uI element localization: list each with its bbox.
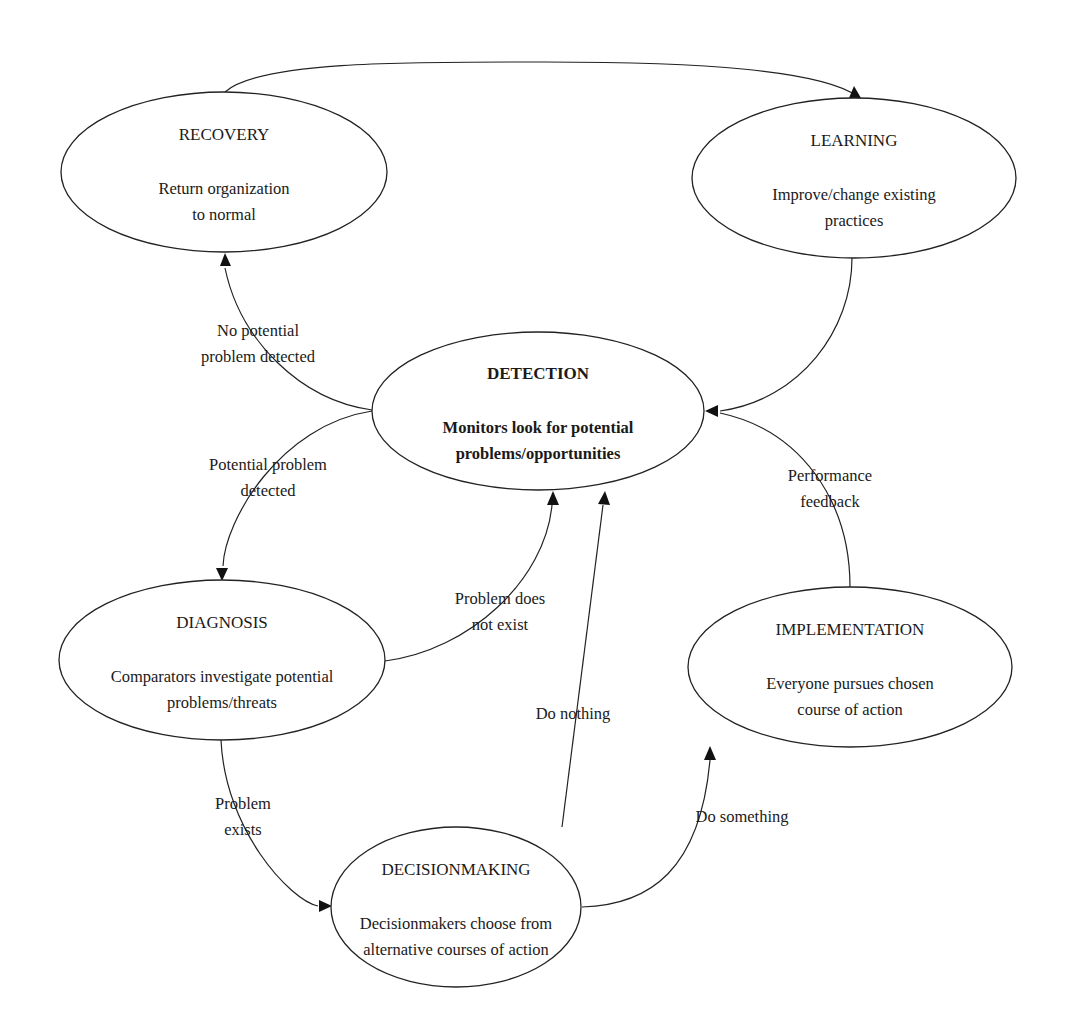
- arrowhead-icon: [220, 253, 231, 266]
- edge-learning-to-detection: [705, 258, 852, 417]
- node-decisionmaking-desc-line2: alternative courses of action: [363, 940, 549, 959]
- node-implementation: IMPLEMENTATION Everyone pursues chosen c…: [688, 587, 1012, 747]
- edge-label-no-potential-problem: No potential problem detected: [201, 321, 316, 366]
- edge-decisionmaking-to-detection: [562, 491, 610, 827]
- node-learning-title: LEARNING: [811, 131, 898, 150]
- edge-recovery-to-learning: [225, 62, 861, 98]
- edge-label-line1: Performance: [788, 466, 872, 485]
- node-recovery-desc-line1: Return organization: [158, 179, 289, 198]
- edge-label-line1: No potential: [217, 321, 299, 340]
- arrowhead-icon: [547, 491, 559, 505]
- arrowhead-icon: [705, 405, 718, 417]
- node-diagnosis-desc-line2: problems/threats: [167, 693, 277, 712]
- edge-label-line1: Problem: [215, 794, 271, 813]
- node-learning: LEARNING Improve/change existing practic…: [692, 98, 1016, 258]
- edge-label-line2: detected: [241, 481, 297, 500]
- decision-cycle-diagram: RECOVERY Return organization to normal L…: [0, 0, 1090, 1030]
- node-decisionmaking-title: DECISIONMAKING: [381, 860, 530, 879]
- node-detection-desc-line2: problems/opportunities: [456, 444, 621, 463]
- edge-label-problem-exists: Problem exists: [215, 794, 271, 839]
- edge-label-potential-problem-detected: Potential problem detected: [209, 455, 327, 500]
- node-diagnosis-desc-line1: Comparators investigate potential: [111, 667, 334, 686]
- edge-label-line1: Problem does: [455, 589, 545, 608]
- node-implementation-title: IMPLEMENTATION: [776, 620, 925, 639]
- edge-label: Do something: [695, 807, 788, 826]
- node-recovery-desc-line2: to normal: [192, 205, 256, 224]
- node-implementation-desc-line2: course of action: [797, 700, 902, 719]
- node-detection: DETECTION Monitors look for potential pr…: [372, 332, 704, 490]
- node-implementation-desc-line1: Everyone pursues chosen: [766, 674, 934, 693]
- node-detection-title: DETECTION: [487, 364, 590, 383]
- arrowhead-icon: [598, 491, 610, 505]
- edge-label-line1: Potential problem: [209, 455, 327, 474]
- arrowhead-icon: [319, 900, 332, 912]
- node-learning-desc-line2: practices: [825, 211, 884, 230]
- edge-label-do-nothing: Do nothing: [536, 704, 611, 723]
- edge-label-line2: feedback: [800, 492, 860, 511]
- edge-label-do-something: Do something: [695, 807, 788, 826]
- node-diagnosis: DIAGNOSIS Comparators investigate potent…: [59, 580, 385, 740]
- edge-label-line2: exists: [224, 820, 262, 839]
- edge-label-performance-feedback: Performance feedback: [788, 466, 872, 511]
- edge-label-line2: problem detected: [201, 347, 316, 366]
- node-recovery-title: RECOVERY: [179, 125, 270, 144]
- node-recovery: RECOVERY Return organization to normal: [61, 92, 387, 252]
- node-decisionmaking: DECISIONMAKING Decisionmakers choose fro…: [331, 827, 581, 987]
- edge-label-line2: not exist: [472, 615, 529, 634]
- node-diagnosis-title: DIAGNOSIS: [176, 613, 268, 632]
- node-detection-desc-line1: Monitors look for potential: [443, 418, 634, 437]
- edge-decisionmaking-to-implementation: [582, 746, 716, 907]
- node-learning-desc-line1: Improve/change existing: [772, 185, 936, 204]
- edge-diagnosis-to-detection: [385, 491, 559, 661]
- arrowhead-icon: [216, 568, 228, 581]
- edge-label-problem-does-not-exist: Problem does not exist: [455, 589, 545, 634]
- node-decisionmaking-desc-line1: Decisionmakers choose from: [360, 914, 553, 933]
- edge-label: Do nothing: [536, 704, 611, 723]
- arrowhead-icon: [704, 746, 716, 760]
